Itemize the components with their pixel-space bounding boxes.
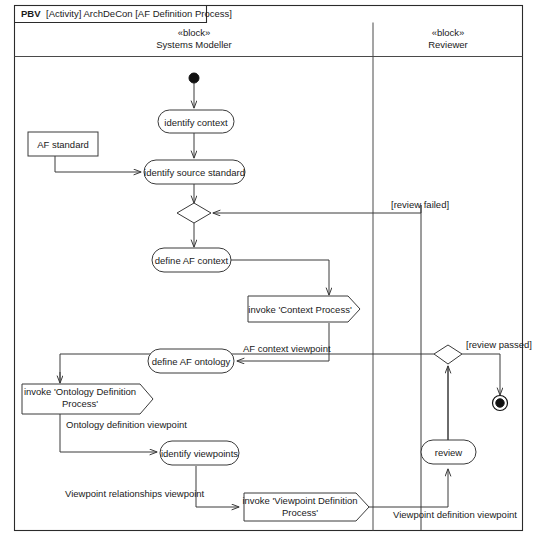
action-identify-viewpoints[interactable]: identify viewpoints	[160, 441, 239, 465]
edge-label-viewpoint-definition-viewpoint: Viewpoint definition viewpoint	[393, 509, 517, 520]
decision-node-review[interactable]	[434, 345, 462, 364]
object-node-af-standard[interactable]: AF standard	[28, 132, 98, 156]
edge-label-ontology-definition-viewpoint: Ontology definition viewpoint	[66, 419, 187, 430]
edge-invoke-viewpoint-process-to-review	[368, 469, 448, 507]
action-define-af-ontology[interactable]: define AF ontology	[148, 349, 234, 373]
edge-invoke-context-process-to-define-af-ontology	[237, 323, 329, 361]
send-signal-invoke-ontology-definition-process-label-line1: invoke 'Ontology Definition	[24, 386, 136, 397]
edge-review-passed-to-final	[462, 354, 500, 395]
action-define-af-ontology-label: define AF ontology	[152, 356, 231, 367]
send-signal-invoke-viewpoint-definition-process-label-line1: invoke 'Viewpoint Definition	[242, 495, 357, 506]
action-identify-context[interactable]: identify context	[158, 110, 234, 133]
edge-label-review-failed: [review failed]	[391, 199, 449, 210]
swimlane-header-reviewer: «block» Reviewer	[428, 27, 468, 50]
send-signal-invoke-viewpoint-definition-process-label-line2: Process'	[282, 507, 318, 518]
action-define-af-context[interactable]: define AF context	[152, 248, 231, 272]
frame-title-prefix: PBV	[21, 8, 41, 19]
diagram-svg: PBV [Activity] ArchDeCon [AF Definition …	[0, 0, 537, 542]
send-signal-invoke-viewpoint-definition-process[interactable]: invoke 'Viewpoint Definition Process'	[242, 493, 369, 521]
object-node-af-standard-label: AF standard	[37, 139, 89, 150]
edge-review-decision-to-define-af-ontology-path	[60, 354, 434, 383]
action-identify-source-standard[interactable]: identify source standard	[144, 160, 245, 184]
activity-diagram-canvas: PBV [Activity] ArchDeCon [AF Definition …	[0, 0, 537, 542]
send-signal-invoke-context-process-label: invoke 'Context Process'	[248, 304, 352, 315]
action-define-af-context-label: define AF context	[155, 255, 229, 266]
send-signal-invoke-ontology-definition-process-label-line2: Process'	[62, 398, 98, 409]
edge-define-af-context-to-invoke-context-process	[231, 260, 329, 295]
swimlane-header-systems-modeller: «block» Systems Modeller	[156, 27, 232, 50]
action-review[interactable]: review	[421, 440, 476, 464]
edge-label-viewpoint-relationships-viewpoint: Viewpoint relationships viewpoint	[65, 488, 205, 499]
edge-label-group: [review failed] [review passed] AF conte…	[65, 199, 532, 520]
edge-identify-viewpoints-to-invoke-viewpoint-process	[196, 466, 239, 507]
action-review-label: review	[435, 447, 463, 458]
action-identify-context-label: identify context	[164, 117, 228, 128]
edge-af-standard-to-identify-source-standard	[55, 156, 141, 172]
frame-title-rest: [Activity] ArchDeCon [AF Definition Proc…	[46, 8, 232, 19]
send-signal-invoke-ontology-definition-process[interactable]: invoke 'Ontology Definition Process'	[22, 384, 153, 414]
lane-stereotype-systems-modeller: «block»	[178, 27, 211, 38]
lane-label-reviewer: Reviewer	[428, 39, 468, 50]
initial-node[interactable]	[189, 73, 199, 83]
send-signal-invoke-context-process[interactable]: invoke 'Context Process'	[248, 296, 360, 322]
lane-stereotype-reviewer: «block»	[432, 27, 465, 38]
action-identify-source-standard-label: identify source standard	[144, 167, 245, 178]
action-identify-viewpoints-label: identify viewpoints	[161, 448, 238, 459]
merge-node-top[interactable]	[177, 203, 211, 223]
edge-label-review-passed: [review passed]	[466, 339, 532, 350]
frame-title-tag: PBV [Activity] ArchDeCon [AF Definition …	[15, 6, 232, 23]
lane-label-systems-modeller: Systems Modeller	[156, 39, 232, 50]
final-node[interactable]	[493, 396, 508, 411]
edge-label-af-context-viewpoint: AF context viewpoint	[243, 343, 331, 354]
